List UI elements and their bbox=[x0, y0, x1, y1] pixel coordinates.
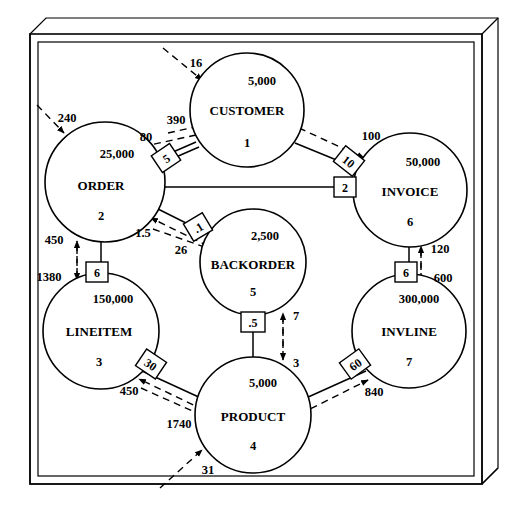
node-product-count: 5,000 bbox=[249, 376, 277, 390]
node-invoice-count: 50,000 bbox=[406, 155, 440, 169]
label-backorder-to-product: 3 bbox=[293, 356, 299, 370]
node-invoice-number: 6 bbox=[407, 215, 413, 229]
card-box-invoice-invline-label: 6 bbox=[403, 266, 409, 280]
label-invline-to-invoice: 120 bbox=[431, 242, 450, 256]
node-customer-name: CUSTOMER bbox=[210, 103, 285, 118]
label-invoice-to-invline: 600 bbox=[434, 271, 453, 285]
node-invoice-name: INVOICE bbox=[382, 184, 439, 199]
node-backorder-count: 2,500 bbox=[251, 229, 279, 243]
node-backorder-number: 5 bbox=[250, 285, 256, 299]
node-invline[interactable]: 300,000 INVLINE 7 bbox=[352, 274, 466, 388]
node-lineitem-count: 150,000 bbox=[93, 292, 134, 306]
label-customer-to-order: 390 bbox=[167, 113, 186, 127]
label-order-to-lineitem: 1380 bbox=[37, 270, 62, 284]
node-lineitem-name: LINEITEM bbox=[66, 324, 132, 339]
node-product-number: 4 bbox=[250, 439, 257, 453]
arrow-ext-product bbox=[160, 450, 202, 488]
node-order-name: ORDER bbox=[78, 178, 126, 193]
node-invline-number: 7 bbox=[406, 355, 412, 369]
node-customer-number: 1 bbox=[244, 136, 250, 150]
node-lineitem[interactable]: 150,000 LINEITEM 3 bbox=[43, 273, 159, 389]
node-order-number: 2 bbox=[98, 209, 104, 223]
label-customer-to-invoice: 100 bbox=[362, 129, 381, 143]
label-lineitem-to-product: 1740 bbox=[167, 417, 192, 431]
card-box-order-invoice-label: 2 bbox=[342, 181, 348, 195]
label-order-to-customer: 80 bbox=[140, 130, 153, 144]
card-box-backorder-product[interactable]: .5 bbox=[241, 312, 265, 332]
node-backorder-name: BACKORDER bbox=[211, 257, 296, 272]
label-backorder-to-order: 1.5 bbox=[135, 226, 151, 240]
diagram-canvas: 5,000 CUSTOMER 1 25,000 ORDER 2 50,000 I… bbox=[0, 0, 517, 513]
node-product[interactable]: 5,000 PRODUCT 4 bbox=[195, 357, 311, 473]
label-ext-customer: 16 bbox=[190, 56, 203, 70]
card-box-order-lineitem-label: 6 bbox=[94, 266, 100, 280]
node-lineitem-number: 3 bbox=[96, 355, 102, 369]
label-product-to-invline: 840 bbox=[365, 385, 384, 399]
node-customer-count: 5,000 bbox=[248, 74, 276, 88]
label-product-to-lineitem: 450 bbox=[120, 384, 139, 398]
card-box-backorder-product-label: .5 bbox=[249, 316, 258, 330]
node-order-count: 25,000 bbox=[100, 147, 134, 161]
node-invline-count: 300,000 bbox=[399, 292, 440, 306]
label-ext-product: 31 bbox=[202, 463, 215, 477]
node-invline-name: INVLINE bbox=[381, 324, 437, 339]
label-product-to-backorder: 7 bbox=[293, 309, 299, 323]
card-box-order-invoice[interactable]: 2 bbox=[334, 177, 356, 197]
label-ext-order: 240 bbox=[58, 111, 77, 125]
label-lineitem-to-order: 450 bbox=[45, 233, 64, 247]
node-invoice[interactable]: 50,000 INVOICE 6 bbox=[353, 133, 467, 247]
er-volume-diagram: 5,000 CUSTOMER 1 25,000 ORDER 2 50,000 I… bbox=[0, 0, 517, 513]
node-backorder[interactable]: 2,500 BACKORDER 5 bbox=[200, 209, 306, 315]
card-box-invoice-invline[interactable]: 6 bbox=[395, 262, 417, 282]
node-product-name: PRODUCT bbox=[221, 409, 286, 424]
label-order-to-backorder: 26 bbox=[175, 243, 188, 257]
card-box-order-lineitem[interactable]: 6 bbox=[86, 262, 108, 282]
node-customer[interactable]: 5,000 CUSTOMER 1 bbox=[190, 53, 304, 167]
